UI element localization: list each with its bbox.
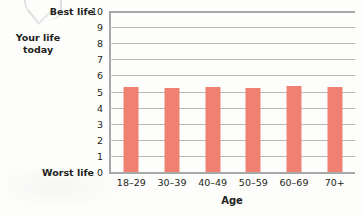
y-axis-tick-label: 5: [97, 86, 103, 97]
plot-area: 012345678910 18–2930–3940–4950–5960–6970…: [109, 11, 355, 174]
bar-group: 30–39: [152, 11, 193, 172]
y-axis-title-line: today: [2, 44, 74, 56]
x-axis-tick-label: 60–69: [280, 177, 309, 188]
y-axis-tick-label: 7: [97, 54, 103, 65]
bar: [246, 88, 261, 172]
gridline: [109, 172, 355, 173]
x-axis-tick-label: 70+: [325, 177, 345, 188]
y-axis-tick-label: 9: [97, 22, 103, 33]
bar: [164, 88, 179, 172]
x-axis-tick-label: 40–49: [198, 177, 227, 188]
y-axis-tick-label: 1: [97, 150, 103, 161]
bar-group: 70+: [314, 11, 355, 172]
x-axis-tick-label: 50–59: [239, 177, 268, 188]
x-axis-tick-label: 18–29: [117, 177, 146, 188]
bar: [327, 87, 342, 172]
y-axis-title-line: Your life: [2, 32, 74, 44]
y-axis-tick-label: 3: [97, 118, 103, 129]
y-axis-title: Your lifetoday: [2, 32, 74, 56]
bar-group: 18–29: [111, 11, 152, 172]
bar-group: 50–59: [233, 11, 274, 172]
bar: [124, 87, 139, 172]
y-axis-tick-label: 2: [97, 134, 103, 145]
y-axis-tick-label: 6: [97, 70, 103, 81]
bar-group: 40–49: [192, 11, 233, 172]
y-axis-tick-label: 0: [97, 167, 103, 178]
y-axis-tick-label: 10: [91, 6, 103, 17]
x-axis-tick-label: 30–39: [158, 177, 187, 188]
x-axis-title: Age: [109, 195, 355, 206]
bar: [286, 86, 301, 172]
y-axis-tick-label: 8: [97, 38, 103, 49]
bar-group: 60–69: [274, 11, 315, 172]
y-axis-tick-label: 4: [97, 102, 103, 113]
bar: [205, 87, 220, 172]
y-axis-min-endcap-label: Worst life: [24, 167, 94, 178]
chart-figure: Best life Worst life Your lifetoday 0123…: [0, 0, 363, 215]
bar-series: 18–2930–3940–4950–5960–6970+: [111, 11, 355, 172]
y-axis-max-endcap-label: Best life: [24, 6, 94, 17]
